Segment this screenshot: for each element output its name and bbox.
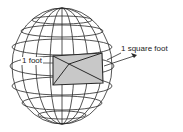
side-length-label: 1 foot <box>21 57 43 65</box>
area-arrow <box>104 53 137 66</box>
sphere-diagram <box>0 0 183 132</box>
square-foot-patch <box>53 53 103 85</box>
arrowhead-icon <box>131 53 137 58</box>
area-label: 1 square foot <box>121 45 168 53</box>
